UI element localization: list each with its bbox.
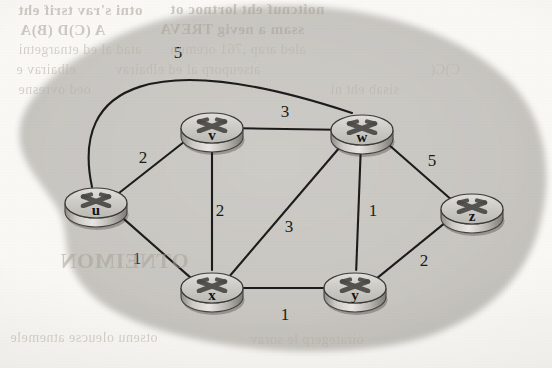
router-node-w[interactable]: w [331,115,395,157]
router-label-y: y [351,287,359,303]
edge-weight-v-w: 3 [281,102,290,121]
edge-weight-x-w: 3 [285,217,294,236]
router-label-u: u [92,202,100,218]
edge-weight-u-w: 5 [174,43,183,62]
router-node-x[interactable]: x [181,273,245,315]
network-graph-diagram: uvwxyz 5213231152 [0,0,552,368]
edge-weight-v-x: 2 [216,201,225,220]
router-node-y[interactable]: y [324,273,388,315]
router-label-z: z [469,208,476,224]
edge-weight-u-v: 2 [139,148,148,167]
router-label-v: v [208,127,216,143]
figure-canvas: otni s'rav tsrif ehtnoitcnuf eht lortnoc… [0,0,552,368]
edge-weight-x-y: 1 [281,305,290,324]
edge-weight-w-z: 5 [428,151,437,170]
router-node-u[interactable]: u [65,188,129,230]
background-blob [20,6,547,352]
router-node-v[interactable]: v [181,113,245,155]
router-label-x: x [208,287,216,303]
router-label-w: w [357,129,368,145]
router-node-z[interactable]: z [441,194,505,236]
edge-weight-w-y: 1 [369,201,378,220]
edge-weight-u-x: 1 [133,249,142,268]
edge-weight-y-z: 2 [420,251,429,270]
